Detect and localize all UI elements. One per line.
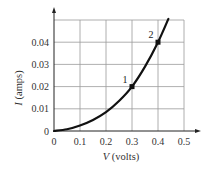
grid-lines <box>54 20 184 131</box>
x-tick-label: 0 <box>52 136 57 147</box>
axes <box>52 7 201 133</box>
y-tick-labels: 00.010.020.030.04 <box>32 37 50 137</box>
x-tick-labels: 00.10.20.30.40.5 <box>52 136 191 147</box>
x-tick-label: 0.2 <box>100 136 113 147</box>
data-point-label: 1 <box>123 74 128 85</box>
x-tick-label: 0.5 <box>178 136 191 147</box>
y-tick-label: 0.01 <box>32 103 50 114</box>
iv-chart: 00.10.20.30.40.5 00.010.020.030.04 12 V … <box>0 0 209 169</box>
x-tick-label: 0.4 <box>152 136 165 147</box>
y-tick-label: 0.04 <box>32 37 50 48</box>
y-tick-label: 0.03 <box>32 59 50 70</box>
x-axis-label: V (volts) <box>103 151 140 163</box>
x-tick-label: 0.3 <box>126 136 139 147</box>
y-tick-label: 0.02 <box>32 81 50 92</box>
y-axis-label: I (amps) <box>13 70 25 107</box>
y-axis-arrow-icon <box>52 7 56 13</box>
x-tick-label: 0.1 <box>74 136 87 147</box>
x-axis-arrow-icon <box>195 129 201 133</box>
y-tick-label: 0 <box>44 126 49 137</box>
data-point-label: 2 <box>149 29 154 40</box>
data-point-marker <box>156 40 161 45</box>
annotated-points: 12 <box>123 29 161 89</box>
data-point-marker <box>130 84 135 89</box>
